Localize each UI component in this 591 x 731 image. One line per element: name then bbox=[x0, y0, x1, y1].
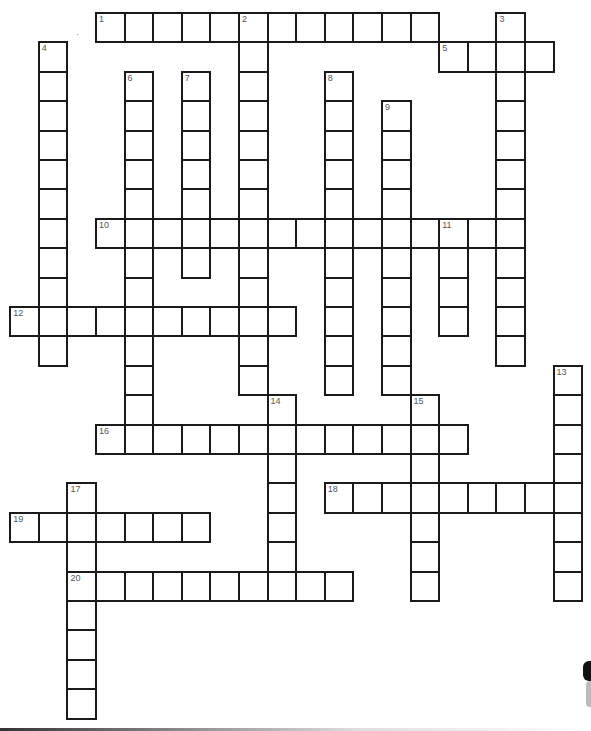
crossword-cell[interactable] bbox=[238, 335, 269, 366]
crossword-cell[interactable] bbox=[495, 218, 526, 249]
crossword-cell[interactable] bbox=[238, 159, 269, 190]
crossword-cell[interactable] bbox=[410, 512, 441, 543]
crossword-cell[interactable] bbox=[209, 218, 240, 249]
crossword-cell[interactable] bbox=[324, 247, 355, 278]
crossword-cell[interactable] bbox=[267, 453, 298, 484]
crossword-cell[interactable] bbox=[238, 571, 269, 602]
crossword-cell[interactable] bbox=[324, 159, 355, 190]
crossword-cell[interactable] bbox=[495, 188, 526, 219]
crossword-cell[interactable] bbox=[66, 512, 97, 543]
crossword-cell[interactable] bbox=[124, 571, 155, 602]
crossword-cell[interactable]: 15 bbox=[410, 394, 441, 425]
crossword-cell[interactable] bbox=[267, 482, 298, 513]
crossword-cell[interactable] bbox=[152, 571, 183, 602]
crossword-cell[interactable] bbox=[124, 130, 155, 161]
crossword-cell[interactable] bbox=[381, 365, 412, 396]
crossword-cell[interactable] bbox=[352, 218, 383, 249]
crossword-cell[interactable] bbox=[124, 306, 155, 337]
crossword-cell[interactable] bbox=[352, 482, 383, 513]
crossword-cell[interactable] bbox=[324, 424, 355, 455]
crossword-cell[interactable] bbox=[324, 130, 355, 161]
crossword-cell[interactable] bbox=[124, 247, 155, 278]
crossword-cell[interactable] bbox=[66, 629, 97, 660]
crossword-cell[interactable] bbox=[324, 306, 355, 337]
crossword-cell[interactable]: 10 bbox=[95, 218, 126, 249]
crossword-cell[interactable] bbox=[209, 571, 240, 602]
crossword-cell[interactable] bbox=[410, 571, 441, 602]
crossword-cell[interactable] bbox=[181, 130, 212, 161]
crossword-cell[interactable] bbox=[152, 218, 183, 249]
crossword-cell[interactable] bbox=[181, 512, 212, 543]
crossword-cell[interactable] bbox=[495, 130, 526, 161]
crossword-cell[interactable] bbox=[66, 306, 97, 337]
crossword-cell[interactable] bbox=[267, 218, 298, 249]
crossword-cell[interactable]: 11 bbox=[438, 218, 469, 249]
crossword-cell[interactable] bbox=[410, 482, 441, 513]
crossword-cell[interactable] bbox=[66, 659, 97, 690]
crossword-cell[interactable] bbox=[181, 159, 212, 190]
crossword-cell[interactable] bbox=[38, 306, 69, 337]
crossword-cell[interactable] bbox=[495, 71, 526, 102]
crossword-cell[interactable] bbox=[38, 277, 69, 308]
crossword-cell[interactable]: 1 bbox=[95, 12, 126, 43]
crossword-cell[interactable] bbox=[238, 365, 269, 396]
crossword-cell[interactable] bbox=[438, 306, 469, 337]
crossword-cell[interactable] bbox=[553, 541, 584, 572]
crossword-cell[interactable] bbox=[238, 424, 269, 455]
crossword-cell[interactable] bbox=[553, 482, 584, 513]
crossword-cell[interactable] bbox=[181, 306, 212, 337]
crossword-cell[interactable] bbox=[238, 218, 269, 249]
crossword-cell[interactable] bbox=[209, 424, 240, 455]
crossword-cell[interactable] bbox=[152, 424, 183, 455]
crossword-cell[interactable] bbox=[438, 247, 469, 278]
crossword-cell[interactable] bbox=[38, 335, 69, 366]
crossword-cell[interactable] bbox=[410, 453, 441, 484]
crossword-cell[interactable] bbox=[181, 12, 212, 43]
crossword-cell[interactable] bbox=[352, 424, 383, 455]
crossword-cell[interactable] bbox=[66, 541, 97, 572]
crossword-cell[interactable] bbox=[267, 424, 298, 455]
crossword-cell[interactable] bbox=[381, 247, 412, 278]
crossword-cell[interactable] bbox=[181, 218, 212, 249]
crossword-cell[interactable]: 5 bbox=[438, 41, 469, 72]
crossword-cell[interactable] bbox=[324, 100, 355, 131]
crossword-cell[interactable] bbox=[295, 218, 326, 249]
crossword-cell[interactable]: 19 bbox=[9, 512, 40, 543]
crossword-cell[interactable] bbox=[124, 394, 155, 425]
crossword-cell[interactable] bbox=[352, 12, 383, 43]
crossword-cell[interactable] bbox=[495, 306, 526, 337]
crossword-cell[interactable] bbox=[324, 277, 355, 308]
crossword-cell[interactable] bbox=[181, 247, 212, 278]
crossword-cell[interactable] bbox=[324, 12, 355, 43]
crossword-cell[interactable] bbox=[495, 335, 526, 366]
crossword-cell[interactable] bbox=[124, 365, 155, 396]
crossword-cell[interactable] bbox=[410, 12, 441, 43]
crossword-cell[interactable] bbox=[295, 571, 326, 602]
crossword-cell[interactable] bbox=[124, 424, 155, 455]
crossword-cell[interactable] bbox=[95, 512, 126, 543]
crossword-cell[interactable] bbox=[238, 41, 269, 72]
crossword-cell[interactable] bbox=[324, 365, 355, 396]
crossword-cell[interactable] bbox=[524, 482, 555, 513]
crossword-cell[interactable] bbox=[38, 130, 69, 161]
crossword-cell[interactable] bbox=[209, 12, 240, 43]
crossword-cell[interactable] bbox=[495, 159, 526, 190]
crossword-cell[interactable]: 2 bbox=[238, 12, 269, 43]
crossword-cell[interactable] bbox=[238, 130, 269, 161]
crossword-cell[interactable]: 16 bbox=[95, 424, 126, 455]
crossword-cell[interactable] bbox=[438, 277, 469, 308]
crossword-cell[interactable] bbox=[324, 188, 355, 219]
crossword-cell[interactable] bbox=[467, 218, 498, 249]
crossword-cell[interactable] bbox=[238, 71, 269, 102]
crossword-cell[interactable] bbox=[38, 218, 69, 249]
crossword-cell[interactable] bbox=[381, 306, 412, 337]
crossword-cell[interactable]: 13 bbox=[553, 365, 584, 396]
crossword-cell[interactable] bbox=[553, 453, 584, 484]
crossword-cell[interactable] bbox=[238, 306, 269, 337]
crossword-cell[interactable] bbox=[38, 512, 69, 543]
crossword-cell[interactable] bbox=[381, 12, 412, 43]
crossword-cell[interactable] bbox=[181, 571, 212, 602]
crossword-cell[interactable] bbox=[124, 512, 155, 543]
crossword-cell[interactable] bbox=[38, 100, 69, 131]
crossword-cell[interactable] bbox=[410, 541, 441, 572]
